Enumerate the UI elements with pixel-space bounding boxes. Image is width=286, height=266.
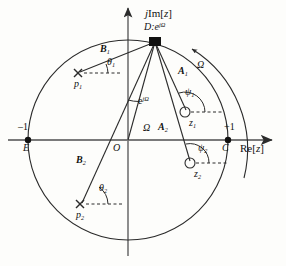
psi2-label: ψ2 bbox=[198, 143, 207, 154]
z-plane-diagram-canvas bbox=[0, 0, 286, 266]
theta1-label: θ1 bbox=[107, 57, 115, 68]
pole-p2-label: p2 bbox=[76, 210, 84, 221]
point-E-label: E bbox=[23, 143, 29, 153]
minus-one-label: –1 bbox=[18, 122, 28, 132]
vector-B1-label: B1 bbox=[100, 44, 110, 55]
theta2-label: θ2 bbox=[99, 183, 107, 194]
real-axis-label: Re[z] bbox=[240, 143, 264, 154]
point-D-marker bbox=[149, 37, 161, 46]
vector-A1-label: A1 bbox=[178, 66, 188, 77]
plus-one-label: +1 bbox=[224, 122, 235, 132]
vector-B2-label: B2 bbox=[76, 155, 86, 166]
imaginary-axis-label: jIm[z] bbox=[145, 8, 172, 19]
vector-A2-label: A2 bbox=[158, 122, 168, 133]
unit-phasor-label: ejΩ bbox=[138, 96, 149, 106]
omega-angle-label: Ω bbox=[143, 123, 150, 133]
unit-phasor-vector bbox=[128, 42, 155, 140]
vector-A2 bbox=[155, 42, 190, 161]
zero-z2-label: z2 bbox=[194, 169, 201, 180]
psi1-label: ψ1 bbox=[185, 87, 194, 98]
point-C-label: C bbox=[222, 143, 229, 153]
figure-container: jIm[z] Re[z] D:ejΩ –1 E +1 C O ejΩ Ω Ω A… bbox=[0, 0, 286, 266]
frequency-arc-label: Ω bbox=[197, 60, 204, 70]
zero-z1-label: z1 bbox=[189, 118, 196, 129]
pole-marker-p1 bbox=[74, 69, 82, 77]
point-D-label: D:ejΩ bbox=[144, 22, 165, 32]
pole-marker-p2 bbox=[76, 200, 84, 208]
pole-p1-label: p1 bbox=[74, 79, 82, 90]
origin-label: O bbox=[113, 143, 120, 153]
